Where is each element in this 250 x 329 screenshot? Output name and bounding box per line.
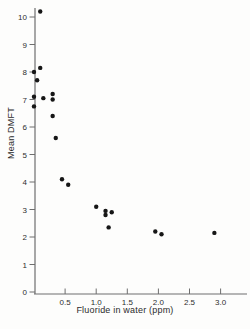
data-point	[32, 104, 36, 108]
y-tick-label: 10	[18, 13, 27, 22]
scatter-plot-figure: 0123456789100.51.01.52.02.53.0 Mean DMFT…	[0, 0, 250, 329]
y-axis-label: Mean DMFT	[6, 98, 16, 168]
y-tick-label: 2	[23, 233, 28, 242]
data-point	[38, 9, 42, 13]
data-point	[110, 210, 114, 214]
x-tick-label: 3.0	[215, 298, 227, 307]
data-point	[212, 231, 216, 235]
y-tick-label: 6	[23, 123, 28, 132]
data-point	[50, 114, 54, 118]
data-point	[103, 213, 107, 217]
data-point	[32, 95, 36, 99]
y-tick-label: 7	[23, 96, 28, 105]
data-point	[50, 97, 54, 101]
y-tick-label: 5	[23, 151, 28, 160]
data-point	[159, 232, 163, 236]
data-point	[60, 177, 64, 181]
x-axis-label: Fluoride in water (ppm)	[40, 305, 210, 315]
data-point	[103, 209, 107, 213]
plot-area: 0123456789100.51.01.52.02.53.0	[0, 0, 250, 329]
y-tick-label: 8	[23, 68, 28, 77]
data-point	[54, 136, 58, 140]
data-point	[38, 66, 42, 70]
y-tick-label: 3	[23, 206, 28, 215]
data-point	[66, 183, 70, 187]
data-point	[94, 205, 98, 209]
data-point	[50, 92, 54, 96]
data-point	[153, 229, 157, 233]
y-tick-label: 9	[23, 41, 28, 50]
y-tick-label: 1	[23, 261, 28, 270]
data-point	[32, 70, 36, 74]
y-tick-label: 0	[23, 288, 28, 297]
data-point	[41, 96, 45, 100]
data-point	[35, 78, 39, 82]
y-tick-label: 4	[23, 178, 28, 187]
data-point	[106, 225, 110, 229]
